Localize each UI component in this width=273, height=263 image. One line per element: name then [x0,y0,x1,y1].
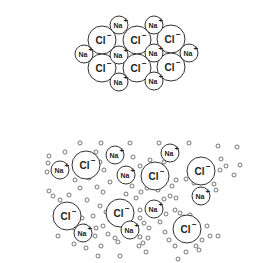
water-molecule [116,240,120,244]
water-molecule [208,234,212,238]
water-molecule [216,144,220,148]
sodium-charge: + [88,224,93,233]
water-molecule [194,244,198,248]
crystal-lattice: Cl−Cl−Cl−Cl−Cl−Cl−Na+Na+Na+Na+Na+Na+Na+N… [75,16,199,91]
chloride-symbol: Cl [195,166,205,177]
dissolved-sodium-ion: Na+ [106,146,125,164]
water-molecule [232,173,236,177]
dissolved-chloride-ion: Cl− [72,151,100,179]
water-molecule [163,230,167,234]
lattice-sodium-ion: Na+ [110,73,129,91]
dissolved-sodium-ion: Na+ [51,161,70,179]
dissolved-sodium-ion: Na+ [192,187,211,205]
dissolved-sodium-ion: Na+ [121,221,140,239]
chloride-symbol: Cl [181,224,191,235]
chloride-symbol: Cl [131,63,141,74]
sodium-symbol: Na [165,150,174,157]
water-molecule [130,184,134,188]
sodium-symbol: Na [196,193,205,200]
chloride-charge: − [142,59,147,68]
chloride-symbol: Cl [80,160,90,171]
sodium-symbol: Na [149,206,158,213]
water-molecule [137,244,141,248]
water-molecule [174,196,178,200]
water-molecule [214,188,218,192]
lattice-sodium-ion: Na+ [145,72,164,90]
water-molecule [101,190,105,194]
water-molecule [170,184,174,188]
water-molecule [45,170,49,174]
water-molecule [96,254,100,258]
water-molecule [47,189,51,193]
sodium-symbol: Na [184,50,193,57]
water-molecule [205,224,209,228]
sodium-symbol: Na [121,172,130,179]
chloride-symbol: Cl [114,208,124,219]
water-molecule [113,236,117,240]
sodium-symbol: Na [114,22,123,29]
sodium-symbol: Na [149,50,158,57]
water-molecule [85,198,89,202]
water-molecule [173,244,177,248]
lattice-sodium-ion: Na+ [145,44,164,62]
lattice-sodium-ion: Na+ [110,16,129,34]
sodium-charge: + [194,44,199,53]
sodium-charge: + [65,161,70,170]
water-molecule [63,150,67,154]
lattice-sodium-ion: Na+ [180,44,199,62]
dissolved-sodium-ion: Na+ [145,200,164,218]
water-molecule [108,180,112,184]
sodium-symbol: Na [55,167,64,174]
chloride-charge: − [160,167,165,176]
water-molecule [124,192,128,196]
water-molecule [101,224,105,228]
dissolved-chloride-ion: Cl− [141,162,169,190]
water-molecule [235,145,239,149]
water-molecule [98,204,102,208]
water-molecule [197,248,201,252]
sodium-symbol: Na [110,152,119,159]
nacl-dissolution-diagram: Cl−Cl−Cl−Cl−Cl−Cl−Na+Na+Na+Na+Na+Na+Na+N… [0,0,273,263]
water-molecule [118,254,122,258]
water-molecule [174,178,178,182]
water-molecule [47,154,51,158]
water-molecule [56,234,60,238]
dissolved-sodium-ion: Na+ [161,144,180,162]
water-molecule [138,216,142,220]
sodium-charge: + [124,73,129,82]
chloride-charge: − [192,220,197,229]
chloride-charge: − [72,207,77,216]
chloride-charge: − [125,204,130,213]
water-molecule [216,234,220,238]
water-molecule [99,244,103,248]
water-molecule [99,141,103,145]
water-molecule [138,235,142,239]
water-molecule [148,158,152,162]
water-molecule [173,208,177,212]
dissolved-chloride-ion: Cl− [187,157,215,185]
sodium-charge: + [159,72,164,81]
water-molecule [94,226,98,230]
chloride-symbol: Cl [165,34,175,45]
sodium-symbol: Na [114,52,123,59]
water-molecule [164,212,168,216]
water-molecule [146,236,150,240]
water-molecule [72,242,76,246]
chloride-charge: − [176,58,181,67]
water-molecule [138,164,142,168]
water-molecule [178,211,182,215]
water-molecule [128,141,132,145]
sodium-symbol: Na [79,51,88,58]
chloride-charge: − [142,31,147,40]
sodium-charge: + [124,46,129,55]
chloride-charge: − [91,156,96,165]
water-molecule [168,194,172,198]
water-molecule [84,246,88,250]
chloride-symbol: Cl [149,171,159,182]
sodium-symbol: Na [114,79,123,86]
water-molecule [51,194,55,198]
dissolved-sodium-ion: Na+ [74,224,93,242]
dissolved-chloride-ion: Cl− [173,215,201,243]
sodium-charge: + [159,44,164,53]
water-molecule [73,178,77,182]
